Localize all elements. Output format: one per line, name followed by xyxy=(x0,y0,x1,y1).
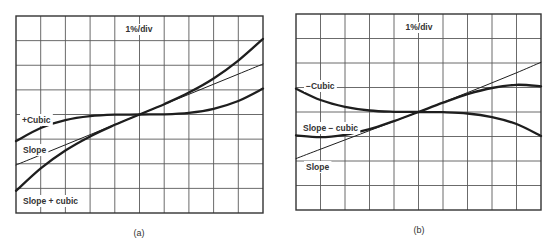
curve-label: Slope − cubic xyxy=(303,123,358,133)
oscilloscope-grid-figure: +CubicSlopeSlope + cubic 1%/div (a) −Cub… xyxy=(0,0,558,251)
curve-label: Slope + cubic xyxy=(23,196,78,206)
curve-label: Slope xyxy=(23,145,46,155)
figure: +CubicSlopeSlope + cubic 1%/div (a) −Cub… xyxy=(0,0,558,251)
panel-a-caption: (a) xyxy=(134,228,145,238)
panel-a-scale-label: 1%/div xyxy=(126,24,153,34)
curve-label: +Cubic xyxy=(22,115,51,125)
panel-b-labels: −CubicSlope − cubicSlope xyxy=(301,80,360,173)
curve-label: Slope xyxy=(306,162,329,172)
panel-b-caption: (b) xyxy=(414,225,425,235)
panel-b: −CubicSlope − cubicSlope 1%/div (b) xyxy=(296,14,541,235)
panel-a: +CubicSlopeSlope + cubic 1%/div (a) xyxy=(16,16,263,238)
panel-b-scale-label: 1%/div xyxy=(406,22,433,32)
curve-label: −Cubic xyxy=(306,81,335,91)
